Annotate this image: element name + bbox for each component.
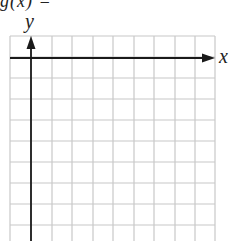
x-axis-arrow-icon	[202, 54, 215, 63]
grid-lines	[10, 36, 215, 241]
coordinate-grid	[0, 0, 232, 241]
y-axis-arrow-icon	[27, 36, 36, 49]
